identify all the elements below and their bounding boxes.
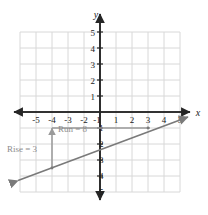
rise-annotation-label: Rise = 3 bbox=[7, 144, 38, 154]
y-axis-label: y bbox=[93, 9, 99, 20]
y-tick-label: 3 bbox=[91, 60, 96, 70]
x-axis-label: x bbox=[195, 107, 201, 118]
x-tick-label: 1 bbox=[114, 115, 119, 125]
y-tick-label: 5 bbox=[91, 28, 96, 38]
x-tick-label: 4 bbox=[162, 115, 167, 125]
point-marker-upper bbox=[147, 127, 150, 130]
coordinate-plane-figure: -5 -4 -3 -2 -1 1 2 3 4 5 5 4 3 2 1 1 2 3… bbox=[0, 0, 208, 215]
x-tick-label: -4 bbox=[48, 115, 56, 125]
y-tick-label: 1 bbox=[91, 92, 96, 102]
point-marker-lower bbox=[51, 167, 54, 170]
y-tick-label: 4 bbox=[91, 44, 96, 54]
x-tick-label: 3 bbox=[146, 115, 151, 125]
graph-canvas: -5 -4 -3 -2 -1 1 2 3 4 5 5 4 3 2 1 1 2 3… bbox=[0, 0, 208, 215]
y-tick-label: 2 bbox=[91, 76, 96, 86]
x-tick-label: 2 bbox=[130, 115, 135, 125]
run-annotation-label: Run = 8 bbox=[58, 124, 88, 134]
x-tick-label: -5 bbox=[32, 115, 40, 125]
